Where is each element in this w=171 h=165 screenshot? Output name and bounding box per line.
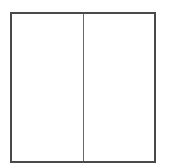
left-pane xyxy=(12,14,83,161)
outer-rectangle xyxy=(10,12,156,163)
right-pane xyxy=(84,14,154,161)
